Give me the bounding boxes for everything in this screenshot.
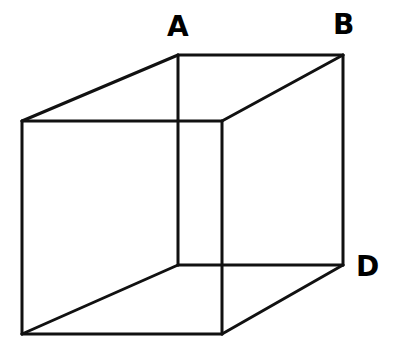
cube-edge [22, 55, 178, 121]
vertex-label-a: A [167, 13, 189, 41]
cube-wireframe [0, 0, 397, 359]
cube-edge [22, 265, 178, 334]
cube-edge [222, 55, 343, 121]
cube-edge [222, 265, 343, 334]
necker-cube-diagram: A B D [0, 0, 397, 359]
vertex-label-d: D [356, 253, 379, 281]
vertex-label-b: B [333, 11, 354, 39]
